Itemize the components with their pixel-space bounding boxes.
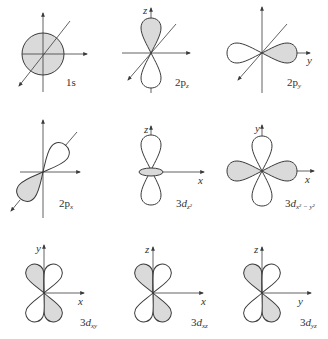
orbital-label-2px: 2px [59, 197, 74, 211]
lobe-y-pos [252, 136, 272, 171]
orbital-label-2py: 2py [287, 76, 302, 90]
lobe-x-pos [262, 161, 297, 181]
lobe-positive [141, 18, 161, 53]
orbital-3dz2: z x 3dz² [139, 123, 204, 211]
lobe-x-neg [227, 161, 262, 181]
axis-label-x: x [77, 295, 83, 307]
axis-label-y: y [254, 122, 260, 134]
orbital-2px: 2px [11, 120, 80, 218]
axis-label-y: y [306, 54, 312, 66]
axis-label-z: z [144, 243, 150, 255]
lobe-y-neg [252, 171, 272, 206]
axis-label-y: y [35, 242, 41, 254]
orbital-label-3dxy: 3dxy [80, 316, 98, 330]
x-axis [11, 200, 20, 211]
orbital-label-2pz: 2pz [175, 76, 189, 90]
orbital-3dx2-y2: y x 3dx² − y² [227, 122, 316, 211]
axis-label-z: z [143, 123, 149, 135]
axis-label-x: x [304, 173, 310, 185]
orbital-label-3dz2: 3dz² [176, 197, 193, 211]
lobe-negative [227, 43, 262, 63]
axis-label-z: z [142, 4, 148, 16]
orbital-3dyz: z y 3dyz [241, 243, 317, 330]
axis-label-z: z [253, 243, 259, 255]
lobe-negative [141, 53, 161, 88]
orbital-label-3dxz: 3dxz [191, 316, 208, 330]
orbital-3dxz: z x 3dxz [132, 243, 208, 330]
orbital-3dxy: y x 3dxy [23, 242, 98, 330]
x-axis-tail [65, 132, 77, 146]
torus-ring [139, 168, 163, 176]
orbital-2pz: z 2pz [122, 4, 190, 93]
orbital-label-1s: 1s [66, 76, 76, 88]
orbital-label-3dx2-y2: 3dx² − y² [285, 197, 316, 211]
lobe-upper [141, 135, 161, 170]
orbital-2py: y 2py [227, 7, 312, 93]
orbital-1s: 1s [19, 13, 87, 92]
orbital-label-3dyz: 3dyz [300, 316, 317, 330]
orbital-diagram: 1s z 2pz y 2py 2px z x [0, 0, 328, 339]
axis-label-x: x [200, 295, 206, 307]
axis-label-y: y [297, 295, 303, 307]
axis-label-x: x [197, 174, 203, 186]
